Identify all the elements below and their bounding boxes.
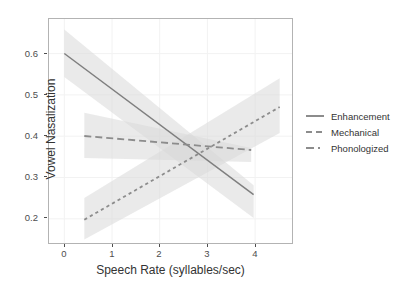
y-tick-label: 0.6 — [14, 48, 38, 59]
x-tick-mark — [112, 244, 113, 247]
y-tick-label: 0.3 — [14, 171, 38, 182]
legend-key-dotted-line-icon — [305, 140, 325, 156]
y-axis-title: Vowel Nasalization — [44, 16, 58, 242]
chart-legend: Enhancement Mechanical Phonologized — [305, 108, 409, 156]
legend-label: Mechanical — [331, 127, 379, 138]
legend-item-mechanical[interactable]: Mechanical — [305, 124, 409, 140]
legend-key-solid-line-icon — [305, 108, 325, 124]
plot-panel — [48, 18, 293, 244]
y-tick-label: 0.4 — [14, 130, 38, 141]
legend-label: Enhancement — [331, 111, 390, 122]
x-tick-label: 3 — [204, 248, 209, 259]
legend-item-phonologized[interactable]: Phonologized — [305, 140, 409, 156]
y-tick-label: 0.2 — [14, 212, 38, 223]
y-tick-label: 0.5 — [14, 89, 38, 100]
x-tick-mark — [159, 244, 160, 247]
legend-item-enhancement[interactable]: Enhancement — [305, 108, 409, 124]
chart-figure: 0.6 0.5 0.4 0.3 0.2 0 1 2 3 4 Speech Rat… — [0, 0, 410, 289]
x-tick-label: 2 — [156, 248, 161, 259]
legend-label: Phonologized — [331, 143, 389, 154]
x-tick-mark — [64, 244, 65, 247]
x-axis-title: Speech Rate (syllables/sec) — [48, 263, 293, 277]
x-tick-label: 1 — [109, 248, 114, 259]
x-tick-mark — [207, 244, 208, 247]
plot-area — [49, 19, 292, 243]
x-tick-mark — [255, 244, 256, 247]
x-tick-label: 0 — [61, 248, 66, 259]
x-tick-label: 4 — [252, 248, 257, 259]
legend-key-dashed-line-icon — [305, 124, 325, 140]
